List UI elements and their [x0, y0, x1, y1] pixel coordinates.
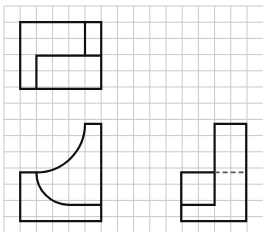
top-figure	[20, 22, 101, 89]
bottom-right-figure	[181, 124, 246, 221]
drawing-canvas	[0, 0, 263, 232]
bottom-left-figure	[20, 124, 101, 221]
figure-edge	[20, 124, 101, 221]
grid	[4, 6, 263, 232]
